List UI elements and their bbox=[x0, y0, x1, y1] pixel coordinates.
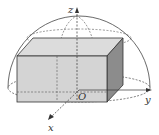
hemisphere-box-diagram: z y x O bbox=[0, 0, 159, 135]
z-axis-arrow bbox=[75, 7, 79, 13]
box-top-face bbox=[17, 38, 123, 56]
x-axis-label: x bbox=[48, 122, 54, 133]
box-front-face bbox=[17, 56, 107, 102]
origin-label: O bbox=[78, 91, 86, 102]
y-axis-label: y bbox=[144, 94, 151, 105]
z-axis-label: z bbox=[67, 4, 74, 15]
y-axis-arrow bbox=[146, 88, 152, 92]
